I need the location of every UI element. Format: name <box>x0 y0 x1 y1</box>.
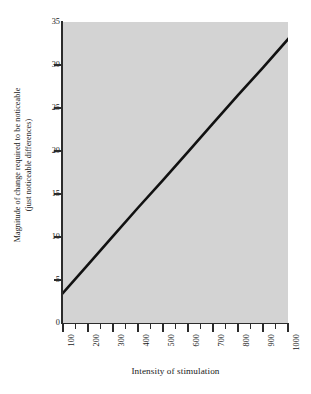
x-minor-tick-mark <box>75 324 76 329</box>
x-minor-tick-mark <box>125 324 126 329</box>
x-tick-mark <box>112 324 113 332</box>
x-tick-mark <box>87 324 88 332</box>
x-tick-label-group: 1002003004005006007008009001000 <box>0 334 311 368</box>
x-minor-tick-mark <box>150 324 151 329</box>
x-tick-mark <box>162 324 163 332</box>
x-minor-tick-mark <box>175 324 176 329</box>
data-line-svg <box>63 22 288 323</box>
chart-figure: Magnitude of change required to be notic… <box>0 0 311 394</box>
x-minor-tick-mark <box>100 324 101 329</box>
y-axis-title-text: Magnitude of change required to be notic… <box>12 88 34 243</box>
x-tick-label: 300 <box>117 334 126 368</box>
x-tick-label: 100 <box>67 334 76 368</box>
x-tick-label: 900 <box>267 334 276 368</box>
y-axis-title-line2: (just noticeable differences) <box>23 88 34 243</box>
x-tick-mark <box>287 324 288 332</box>
x-minor-tick-mark <box>200 324 201 329</box>
x-tick-label: 400 <box>142 334 151 368</box>
y-tick-label: 0 <box>38 319 60 327</box>
x-tick-label: 500 <box>167 334 176 368</box>
plot-area <box>63 22 288 323</box>
x-tick-mark <box>62 324 63 332</box>
x-tick-label: 600 <box>192 334 201 368</box>
x-tick-label: 200 <box>92 334 101 368</box>
y-axis-title: Magnitude of change required to be notic… <box>10 30 36 300</box>
x-minor-tick-mark <box>250 324 251 329</box>
x-tick-mark <box>137 324 138 332</box>
x-tick-mark <box>212 324 213 332</box>
x-axis-title: Intensity of stimulation <box>63 366 288 377</box>
x-tick-mark <box>187 324 188 332</box>
y-axis-title-line1: Magnitude of change required to be notic… <box>12 88 23 243</box>
x-minor-tick-mark <box>225 324 226 329</box>
y-axis-spine <box>61 21 63 324</box>
x-tick-mark <box>262 324 263 332</box>
x-tick-label: 800 <box>242 334 251 368</box>
data-line-series <box>63 39 288 293</box>
x-tick-label: 700 <box>217 334 226 368</box>
y-tick-label: 35 <box>38 18 60 26</box>
x-minor-tick-mark <box>275 324 276 329</box>
x-tick-mark <box>237 324 238 332</box>
x-tick-label: 1000 <box>292 334 301 368</box>
